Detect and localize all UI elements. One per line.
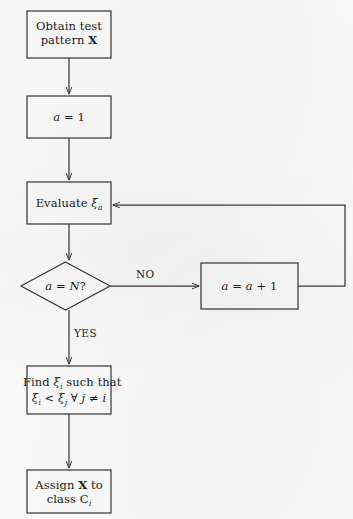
assign-prefix: Assign — [35, 478, 78, 492]
evaluate-xi-subscript: a — [98, 203, 103, 212]
decision-question-mark: ? — [80, 279, 86, 293]
flowchart-page: Obtain test pattern X a = 1 Evaluate ξa … — [0, 0, 353, 519]
find-xi-j-sub: j — [65, 398, 67, 407]
find-suffix: such that — [63, 375, 122, 389]
increment-rhs: a — [246, 279, 253, 293]
obtain-line-2: pattern X — [27, 33, 111, 47]
edge-label-yes: YES — [74, 327, 97, 339]
assign-pattern-symbol: X — [78, 478, 87, 492]
increment-lhs: a — [222, 279, 229, 293]
increment-equals: = — [229, 279, 246, 293]
find-line-1: Find ξi such that — [23, 375, 122, 389]
node-find-label: Find ξi such that ξi < ξj ∀ j ≠ i — [23, 375, 115, 407]
find-prefix: Find — [23, 375, 54, 389]
obtain-line-1: Obtain test — [36, 19, 102, 33]
find-forall-symbol: ∀ — [67, 391, 82, 405]
find-less-than: < — [41, 391, 58, 405]
evaluate-xi-symbol: ξ — [91, 196, 97, 210]
assign-line-1: Assign X to — [35, 478, 102, 492]
increment-plus-one: + 1 — [253, 279, 278, 293]
decision-rhs: N — [69, 279, 79, 293]
find-xi-i-sub: i — [38, 398, 41, 407]
evaluate-word: Evaluate — [36, 196, 92, 210]
node-decision-label: a = N? — [21, 279, 110, 293]
decision-equals: = — [52, 279, 69, 293]
find-line-2: ξi < ξj ∀ j ≠ i — [23, 391, 115, 407]
assign-line-2: class Ci — [27, 492, 111, 508]
obtain-line-2-prefix: pattern — [41, 33, 89, 47]
assign-suffix: to — [87, 478, 103, 492]
node-evaluate-label: Evaluate ξa — [27, 196, 111, 212]
edge-label-no: NO — [136, 268, 155, 280]
node-init-label: a = 1 — [27, 110, 111, 124]
assign-class-symbol: C — [80, 492, 89, 506]
find-xi-j: ξ — [58, 391, 64, 405]
node-obtain-label: Obtain test pattern X — [27, 19, 111, 47]
find-i: i — [102, 391, 106, 405]
assign-class-subscript: i — [89, 499, 92, 508]
obtain-pattern-symbol: X — [88, 33, 97, 47]
flowchart-canvas — [0, 0, 353, 519]
init-rest: = 1 — [60, 110, 85, 124]
assign-class-prefix: class — [47, 492, 80, 506]
find-not-equal: ≠ — [85, 391, 102, 405]
node-increment-label: a = a + 1 — [201, 279, 298, 293]
node-assign-label: Assign X to class Ci — [27, 478, 111, 508]
find-xi-subscript: i — [60, 382, 63, 391]
